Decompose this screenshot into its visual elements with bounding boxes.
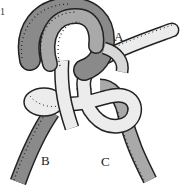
label-b: B (41, 154, 50, 167)
label-c: C (101, 155, 110, 168)
knot-illustration: 1 (0, 0, 184, 186)
label-a: A (114, 30, 123, 43)
knot-drawing (0, 0, 184, 186)
top-coils (21, 4, 122, 72)
rope-end-b (14, 110, 52, 182)
corner-mark: 1 (0, 6, 5, 17)
